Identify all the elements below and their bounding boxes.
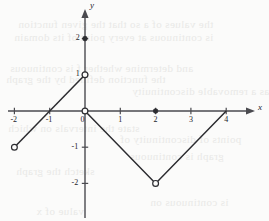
axes [8, 9, 255, 218]
x-tick-label-0: 0 [81, 115, 85, 124]
function-curve [14, 75, 226, 184]
x-tick-label-4: 4 [224, 115, 228, 124]
y-tick-label-neg2: -2 [72, 178, 79, 187]
x-tick-label-2: 2 [154, 115, 158, 124]
x-tick-label-1: 1 [118, 115, 122, 124]
x-tick-label-neg2: -2 [10, 115, 17, 124]
y-tick-label-2: 2 [76, 33, 80, 42]
x-axis-label: x [258, 102, 262, 112]
x-tick-label-3: 3 [189, 115, 193, 124]
coordinate-plane [0, 0, 269, 221]
x-tick-label-neg1: -1 [46, 115, 53, 124]
y-tick-label-neg1: -1 [72, 142, 79, 151]
piecewise-function-graph-figure: the values of a so that the given functi… [0, 0, 269, 221]
y-tick-label-1: 1 [76, 69, 80, 78]
y-axis-label: y [90, 0, 94, 10]
